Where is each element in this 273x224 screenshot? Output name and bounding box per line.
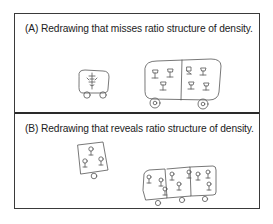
single-unit-car-sketch	[78, 142, 108, 179]
triple-unit-car-sketch	[143, 166, 216, 206]
panel-b-drawings	[15, 14, 259, 208]
figure-frame: (A) Redrawing that misses ratio structur…	[14, 13, 260, 209]
